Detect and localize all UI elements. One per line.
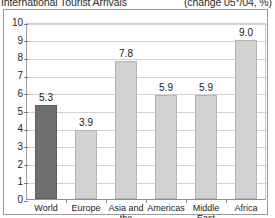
bar-value-label: 9.0 (226, 28, 266, 38)
x-axis-category-label: Africa (226, 203, 266, 213)
y-axis-tick-label: 5 (7, 107, 23, 117)
x-axis-category-label: Middle East (186, 203, 226, 218)
y-axis-tick-label: 3 (7, 142, 23, 152)
y-axis-tick-label: 4 (7, 124, 23, 134)
y-axis-labels: 012345678910 (4, 23, 23, 200)
y-axis-tick (24, 41, 28, 42)
plot-area (26, 23, 266, 200)
bar-middle-east (195, 95, 217, 199)
y-axis-tick (24, 201, 28, 202)
x-axis-category-label: Americas (146, 203, 186, 213)
y-axis-tick (24, 77, 28, 78)
x-axis-category-label: Europe (66, 203, 106, 213)
plot-wrapper: 5.33.97.85.95.99.0 (26, 23, 266, 200)
y-axis-tick-label: 9 (7, 36, 23, 46)
bar-africa (235, 40, 257, 199)
y-axis-tick-label: 6 (7, 89, 23, 99)
y-axis-tick (24, 147, 28, 148)
bar-americas (155, 95, 177, 199)
chart-title: International Tourist Arrivals (1, 0, 127, 8)
y-axis-tick (24, 112, 28, 113)
gridline (27, 77, 267, 78)
gridline (27, 165, 267, 166)
y-axis-tick-label: 0 (7, 195, 23, 205)
bar-value-label: 5.3 (26, 93, 66, 103)
bar-value-label: 3.9 (66, 118, 106, 128)
x-axis-labels: WorldEuropeAsia and the PacificAmericasM… (26, 203, 266, 218)
gridline (27, 147, 267, 148)
chart-frame: 012345678910 5.33.97.85.95.99.0 WorldEur… (3, 9, 268, 215)
bar-value-label: 5.9 (146, 83, 186, 93)
y-axis-tick (24, 24, 28, 25)
y-axis-tick (24, 59, 28, 60)
chart-header: International Tourist Arrivals (change 0… (0, 0, 275, 9)
y-axis-tick-label: 8 (7, 53, 23, 63)
bar-world (35, 105, 57, 199)
bar-value-label: 7.8 (106, 49, 146, 59)
x-axis-category-label: Asia and the Pacific (106, 203, 146, 218)
gridline (27, 130, 267, 131)
x-axis-category-label: World (26, 203, 66, 213)
y-axis-tick (24, 183, 28, 184)
bar-asia-and-the-pacific (115, 61, 137, 199)
bar-value-label: 5.9 (186, 83, 226, 93)
y-axis-tick-label: 2 (7, 160, 23, 170)
gridline (27, 183, 267, 184)
y-axis-tick-label: 1 (7, 177, 23, 187)
gridline (27, 41, 267, 42)
gridline (27, 112, 267, 113)
y-axis-tick-label: 7 (7, 71, 23, 81)
gridline (27, 59, 267, 60)
y-axis-tick (24, 165, 28, 166)
y-axis-tick-label: 10 (7, 18, 23, 28)
bar-europe (75, 130, 97, 199)
chart-subtitle: (change 05*/04, %) (184, 0, 272, 8)
gridline (27, 24, 267, 25)
y-axis-tick (24, 130, 28, 131)
